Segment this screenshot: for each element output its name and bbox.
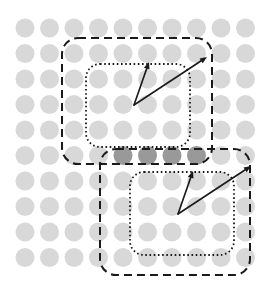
- grid-dot: [187, 223, 206, 242]
- grid-dot: [163, 44, 182, 63]
- grid-dot: [163, 248, 182, 267]
- grid-dot: [89, 19, 108, 38]
- grid-dot: [138, 172, 157, 191]
- grid-dot: [138, 95, 157, 114]
- grid-dot: [40, 95, 59, 114]
- grid-dot: [16, 172, 35, 191]
- grid-dot: [187, 248, 206, 267]
- grid-dot: [163, 95, 182, 114]
- grid-dot: [114, 248, 133, 267]
- grid-dot: [89, 44, 108, 63]
- grid-dot: [16, 70, 35, 89]
- grid-dot: [65, 197, 84, 216]
- grid-dot: [138, 197, 157, 216]
- grid-dot: [16, 95, 35, 114]
- grid-dot: [212, 70, 231, 89]
- grid-dot: [138, 19, 157, 38]
- grid-dot: [163, 70, 182, 89]
- grid-dot: [16, 248, 35, 267]
- grid-dot: [212, 19, 231, 38]
- grid-dot: [65, 172, 84, 191]
- grid-dot: [65, 19, 84, 38]
- grid-dot: [65, 121, 84, 140]
- grid-dot: [89, 121, 108, 140]
- grid-dot: [40, 172, 59, 191]
- grid-dot: [89, 146, 108, 165]
- grid-dot: [236, 95, 255, 114]
- grid-dot: [138, 121, 157, 140]
- grid-dot: [40, 44, 59, 63]
- grid-dot: [114, 95, 133, 114]
- grid-dot: [212, 95, 231, 114]
- grid-dot: [16, 44, 35, 63]
- grid-dot: [114, 44, 133, 63]
- grid-dot: [163, 19, 182, 38]
- grid-dot: [138, 248, 157, 267]
- grid-dot: [212, 197, 231, 216]
- grid-dot: [187, 19, 206, 38]
- grid-dot: [65, 44, 84, 63]
- grid-dot: [212, 223, 231, 242]
- grid-dot: [212, 44, 231, 63]
- grid-dot: [65, 95, 84, 114]
- grid-dot: [40, 121, 59, 140]
- grid-dot: [40, 70, 59, 89]
- grid-dot: [114, 172, 133, 191]
- grid-dot: [212, 248, 231, 267]
- grid-dot: [114, 19, 133, 38]
- grid-dot: [65, 146, 84, 165]
- grid-dot: [16, 223, 35, 242]
- grid-dot: [163, 121, 182, 140]
- grid-dot: [40, 248, 59, 267]
- grid-dot: [114, 70, 133, 89]
- grid-dot: [236, 44, 255, 63]
- grid-dot: [163, 172, 182, 191]
- grid-dot: [89, 223, 108, 242]
- grid-dot: [16, 146, 35, 165]
- grid-dot: [40, 197, 59, 216]
- grid-dot: [236, 70, 255, 89]
- grid-dot: [16, 121, 35, 140]
- grid-dot: [163, 223, 182, 242]
- grid-dot: [236, 197, 255, 216]
- grid-dot: [89, 197, 108, 216]
- grid-dot: [236, 223, 255, 242]
- grid-dot: [16, 19, 35, 38]
- grid-dot: [114, 121, 133, 140]
- grid-dot: [40, 146, 59, 165]
- grid-dot: [89, 248, 108, 267]
- grid-dot: [236, 248, 255, 267]
- grid-dot: [16, 197, 35, 216]
- grid-dot: [138, 223, 157, 242]
- grid-dot: [65, 70, 84, 89]
- grid-dot: [65, 223, 84, 242]
- figure-canvas: Nested receptive fields over a dot grid: [0, 0, 273, 297]
- grid-dot: [236, 19, 255, 38]
- grid-dot: [89, 172, 108, 191]
- grid-dot: [65, 248, 84, 267]
- grid-dot: [89, 95, 108, 114]
- grid-dot: [40, 223, 59, 242]
- grid-dot: [236, 121, 255, 140]
- grid-dot: [138, 44, 157, 63]
- grid-dot: [212, 121, 231, 140]
- grid-dot: [89, 70, 108, 89]
- receptive-field-diagram: [0, 0, 273, 297]
- grid-dot: [40, 19, 59, 38]
